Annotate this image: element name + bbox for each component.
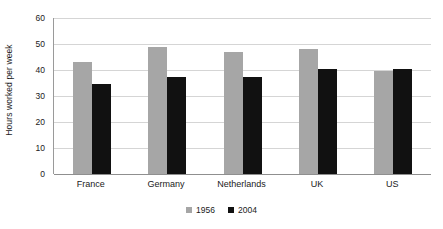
y-axis-title-text: Hours worked per week xyxy=(4,44,14,135)
x-axis-tick-labels: FranceGermanyNetherlandsUKUS xyxy=(53,176,430,192)
legend-swatch-icon xyxy=(228,207,234,213)
legend-label: 1956 xyxy=(196,206,215,215)
bar-france-1956 xyxy=(73,62,92,174)
axis-baseline xyxy=(54,174,431,175)
bars-layer xyxy=(54,18,431,174)
x-axis-tick-label: UK xyxy=(279,176,354,192)
legend-label: 2004 xyxy=(238,206,257,215)
legend-item: 2004 xyxy=(228,206,257,215)
x-axis-tick-label: Germany xyxy=(128,176,203,192)
bar-group xyxy=(129,18,204,174)
bar-netherlands-2004 xyxy=(243,77,262,175)
y-axis-tick-label: 30 xyxy=(36,92,45,101)
plot-area xyxy=(53,18,431,174)
y-axis-tick-label: 60 xyxy=(36,14,45,23)
bar-group xyxy=(54,18,129,174)
y-axis-tick-label: 40 xyxy=(36,66,45,75)
bar-france-2004 xyxy=(92,84,111,174)
bar-netherlands-1956 xyxy=(224,52,243,174)
bar-group xyxy=(280,18,355,174)
bar-uk-1956 xyxy=(299,49,318,174)
x-axis-tick-label: Netherlands xyxy=(204,176,279,192)
bar-us-2004 xyxy=(393,69,412,174)
legend-swatch-icon xyxy=(186,207,192,213)
y-axis-title: Hours worked per week xyxy=(0,0,18,180)
bar-group xyxy=(356,18,431,174)
bar-germany-1956 xyxy=(148,47,167,174)
legend-item: 1956 xyxy=(186,206,215,215)
x-axis-tick-label: France xyxy=(53,176,128,192)
bar-germany-2004 xyxy=(167,77,186,175)
x-axis-tick-label: US xyxy=(355,176,430,192)
bar-chart: Hours worked per week 0102030405060 Fran… xyxy=(0,0,443,229)
y-axis-tick-label: 0 xyxy=(40,170,45,179)
bar-uk-2004 xyxy=(318,69,337,174)
y-axis-tick-label: 20 xyxy=(36,118,45,127)
y-axis-tick-label: 50 xyxy=(36,40,45,49)
y-axis-tick-labels: 0102030405060 xyxy=(18,0,49,180)
bar-us-1956 xyxy=(374,71,393,174)
y-axis-tick-label: 10 xyxy=(36,144,45,153)
bar-group xyxy=(205,18,280,174)
chart-legend: 19562004 xyxy=(0,202,443,218)
